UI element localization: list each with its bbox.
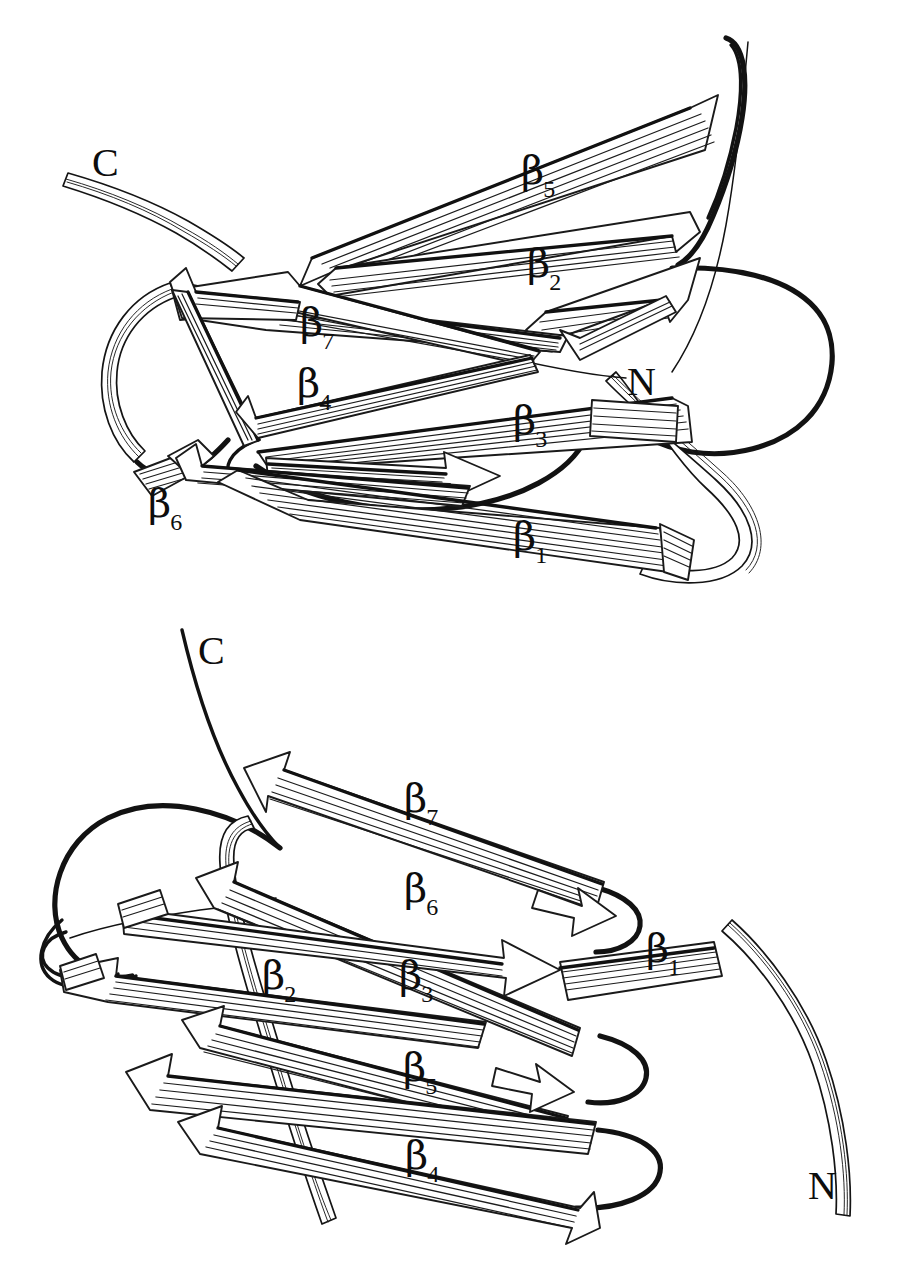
top-label-beta4: β4 bbox=[297, 363, 332, 409]
beta-glyph: β bbox=[404, 865, 427, 911]
beta-glyph: β bbox=[148, 480, 171, 526]
bottom-c-terminus-label: C bbox=[198, 631, 225, 671]
top-c-terminus-label: C bbox=[92, 143, 119, 183]
bottom-label-beta7: β7 bbox=[404, 778, 439, 824]
coil-tube-left-loop bbox=[102, 283, 176, 462]
coil-c-terminus-tail bbox=[182, 630, 280, 848]
bottom-label-beta3: β3 bbox=[399, 955, 434, 1001]
bottom-label-beta6: β6 bbox=[404, 868, 439, 914]
beta-glyph: β bbox=[521, 147, 544, 193]
top-label-beta6: β6 bbox=[148, 483, 183, 529]
beta-glyph: β bbox=[404, 775, 427, 821]
bottom-n-terminus-label: N bbox=[808, 1166, 837, 1206]
beta-index: 1 bbox=[668, 954, 680, 980]
panel-top-view bbox=[0, 0, 909, 620]
strand-lower-right-short bbox=[660, 524, 694, 580]
beta-glyph: β bbox=[405, 1132, 428, 1178]
beta-glyph: β bbox=[527, 240, 550, 286]
strand-right-middle bbox=[590, 400, 678, 442]
beta-index: 3 bbox=[535, 426, 547, 452]
beta-index: 2 bbox=[549, 269, 561, 295]
beta-glyph: β bbox=[513, 397, 536, 443]
top-label-beta2: β2 bbox=[527, 243, 562, 289]
beta-glyph: β bbox=[262, 952, 285, 998]
top-barrel-drawing bbox=[0, 0, 909, 620]
strand-beta6-arrow bbox=[122, 908, 560, 996]
top-label-beta3: β3 bbox=[513, 400, 548, 446]
coil-right-connector-lower bbox=[588, 1036, 647, 1103]
figure-root: C N β5 β2 β7 β4 β3 β6 β1 C N β7 β6 β1 β2… bbox=[0, 0, 909, 1270]
beta-index: 1 bbox=[535, 542, 547, 568]
coil-tube-c-terminus bbox=[63, 173, 244, 271]
top-n-terminus-label: N bbox=[627, 362, 656, 402]
beta-glyph: β bbox=[399, 952, 422, 998]
panel-bottom-view bbox=[0, 620, 909, 1270]
beta-glyph: β bbox=[300, 299, 323, 345]
beta-index: 6 bbox=[426, 894, 438, 920]
top-label-beta7: β7 bbox=[300, 302, 335, 348]
beta-glyph: β bbox=[297, 360, 320, 406]
bottom-label-beta1: β1 bbox=[646, 928, 681, 974]
bottom-label-beta4: β4 bbox=[405, 1135, 440, 1181]
beta-index: 7 bbox=[426, 804, 438, 830]
bottom-label-beta2: β2 bbox=[262, 955, 297, 1001]
beta-index: 2 bbox=[284, 981, 296, 1007]
beta-index: 5 bbox=[425, 1073, 437, 1099]
coil-thin-right bbox=[672, 42, 748, 372]
bottom-barrel-drawing bbox=[0, 620, 909, 1270]
beta-glyph: β bbox=[513, 513, 536, 559]
beta-index: 7 bbox=[322, 328, 334, 354]
beta-index: 6 bbox=[170, 509, 182, 535]
top-label-beta1: β1 bbox=[513, 516, 548, 562]
top-label-beta5: β5 bbox=[521, 150, 556, 196]
beta-index: 4 bbox=[319, 389, 331, 415]
beta-index: 3 bbox=[421, 981, 433, 1007]
strand-beta1-b bbox=[560, 942, 722, 1000]
beta-glyph: β bbox=[646, 925, 669, 971]
beta-index: 4 bbox=[427, 1161, 439, 1187]
beta-index: 5 bbox=[543, 176, 555, 202]
bottom-label-beta5: β5 bbox=[403, 1047, 438, 1093]
beta-glyph: β bbox=[403, 1044, 426, 1090]
